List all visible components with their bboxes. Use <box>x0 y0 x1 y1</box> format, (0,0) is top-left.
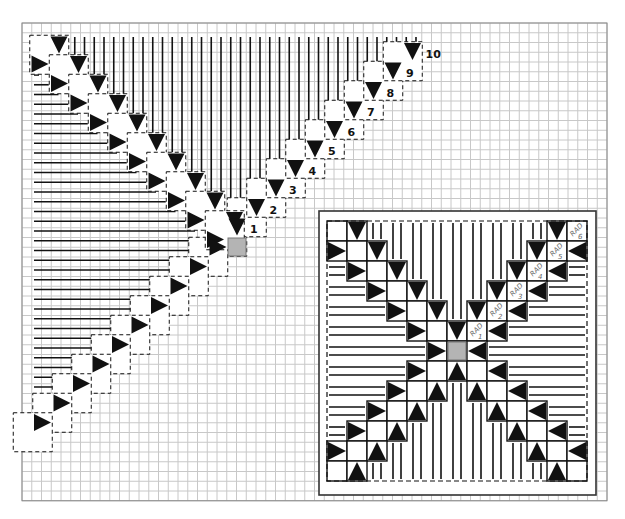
level-label: 9 <box>406 67 414 80</box>
rad-number: 3 <box>518 293 522 301</box>
center-square <box>448 342 466 360</box>
inset-cell <box>387 401 407 421</box>
inset-cell <box>367 261 387 281</box>
level-label: 7 <box>367 106 375 119</box>
inset-cell <box>327 461 347 481</box>
inset-diagram: RAD1RAD2RAD3RAD4RAD5RAD6 <box>319 211 596 495</box>
level-label: 5 <box>328 145 336 158</box>
level-label: 1 <box>250 223 258 236</box>
inset-cell <box>387 281 407 301</box>
rad-number: 6 <box>578 233 583 241</box>
inset-cell <box>347 241 367 261</box>
inset-cell <box>327 221 347 241</box>
inset-cell <box>527 421 547 441</box>
dashed-block <box>13 413 52 452</box>
rad-number: 2 <box>498 313 503 321</box>
inset-cell <box>427 321 447 341</box>
inset-cell <box>547 441 567 461</box>
center-square <box>228 238 246 256</box>
inset-cell <box>407 301 427 321</box>
inset-cell <box>567 461 587 481</box>
level-label: 2 <box>270 204 278 217</box>
rad-number: 5 <box>558 253 563 261</box>
inset-cell <box>467 361 487 381</box>
inset-cell <box>367 421 387 441</box>
inset-cell <box>407 381 427 401</box>
inset-cell <box>507 401 527 421</box>
level-label: 4 <box>309 165 317 178</box>
rad-number: 1 <box>478 333 482 341</box>
level-label: 10 <box>426 48 442 61</box>
rad-number: 4 <box>538 273 542 281</box>
diagram-canvas: 12345678910 RAD1RAD2RAD3RAD4RAD5RAD6 <box>0 0 625 519</box>
level-label: 3 <box>289 184 297 197</box>
level-label: 8 <box>387 87 395 100</box>
inset-cell <box>427 361 447 381</box>
triangle-grid-diagram: 12345678910 RAD1RAD2RAD3RAD4RAD5RAD6 <box>0 0 625 519</box>
level-label: 6 <box>348 126 356 139</box>
inset-cell <box>347 441 367 461</box>
inset-cell <box>487 381 507 401</box>
